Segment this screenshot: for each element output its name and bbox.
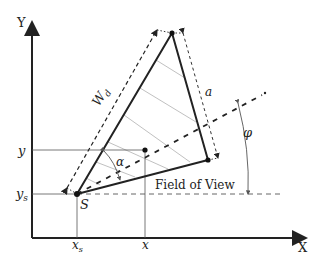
hatch-lines bbox=[86, 60, 196, 185]
alpha-label: α bbox=[116, 155, 124, 169]
width-dimension-line bbox=[67, 30, 157, 188]
fov-triangle bbox=[77, 33, 208, 194]
tick-label-x: x bbox=[142, 238, 149, 252]
field-of-view-diagram: Y X y ys xs x S Wd a α φ Field of View bbox=[0, 0, 321, 264]
side-a-dimension-line bbox=[183, 33, 218, 158]
right-vertex-point bbox=[205, 157, 210, 162]
tick-label-xs: xs bbox=[72, 238, 83, 254]
field-of-view-label: Field of View bbox=[155, 178, 235, 192]
x-axis-label: X bbox=[298, 240, 308, 255]
tick-label-ys: ys bbox=[15, 186, 28, 203]
phi-label: φ bbox=[243, 125, 253, 140]
side-a-label: a bbox=[205, 85, 212, 99]
tick-label-y: y bbox=[17, 143, 26, 158]
phi-angle-arc bbox=[238, 103, 248, 194]
width-label: Wd bbox=[89, 84, 114, 109]
top-vertex-point bbox=[169, 30, 174, 35]
y-axis-label: Y bbox=[16, 15, 26, 30]
target-point bbox=[142, 147, 147, 152]
sensor-label: S bbox=[80, 197, 89, 212]
